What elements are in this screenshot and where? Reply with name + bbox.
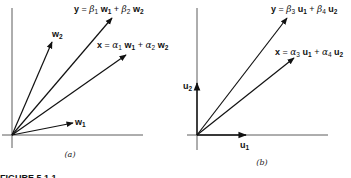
label-u2: u2	[183, 81, 193, 92]
panel-a: w1 w2 y = β1 w1 + β2 w2 x = α1 w1 + α2 w…	[2, 4, 169, 159]
equation-x-b: x = α3 u1 + α4 u2	[275, 47, 344, 58]
equation-y-b: y = β3 u1 + β4 u2	[271, 4, 338, 15]
vector-y-arrow	[197, 18, 287, 135]
vector-x-arrow	[197, 58, 294, 135]
panel-b: u1 u2 y = β3 u1 + β4 u2 x = α3 u1 + α4 u…	[183, 4, 344, 167]
label-w1: w1	[74, 117, 86, 128]
equation-y-a: y = β1 w1 + β2 w2	[74, 4, 144, 15]
label-w2: w2	[51, 29, 63, 40]
vector-diagram: w1 w2 y = β1 w1 + β2 w2 x = α1 w1 + α2 w…	[0, 0, 351, 178]
label-u1: u1	[240, 140, 250, 151]
figure-caption: FIGURE 5.1.1	[0, 173, 57, 178]
panel-b-label: (b)	[256, 158, 267, 167]
equation-x-a: x = α1 w1 + α2 w2	[97, 40, 169, 51]
panel-a-label: (a)	[64, 150, 75, 159]
